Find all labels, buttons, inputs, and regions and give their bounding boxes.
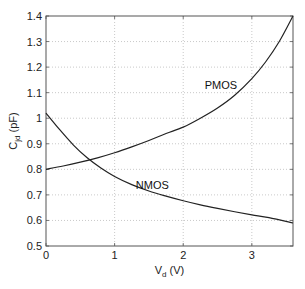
x-tick-label: 3 xyxy=(249,249,255,261)
nmos-curve xyxy=(46,113,293,223)
curve-labels: NMOSPMOS xyxy=(136,79,237,191)
y-tick-label: 1.3 xyxy=(27,36,42,48)
y-tick-label: 0.9 xyxy=(27,138,42,150)
x-tick-label: 1 xyxy=(112,249,118,261)
y-tick-label: 1 xyxy=(36,112,42,124)
y-tick-label: 1.2 xyxy=(27,61,42,73)
y-tick-label: 0.8 xyxy=(27,163,42,175)
y-tick-label: 1.1 xyxy=(27,87,42,99)
tick-marks xyxy=(46,16,293,246)
pmos-label: PMOS xyxy=(205,79,237,91)
x-tick-label: 0 xyxy=(43,249,49,261)
y-tick-label: 0.6 xyxy=(27,214,42,226)
grid-lines xyxy=(46,16,293,246)
x-tick-label: 2 xyxy=(180,249,186,261)
curves xyxy=(46,16,293,223)
plot-frame xyxy=(46,16,293,246)
nmos-label: NMOS xyxy=(136,179,169,191)
y-tick-label: 0.5 xyxy=(27,240,42,252)
junction-capacitance-chart: 0123 0.50.60.70.80.911.11.21.31.4 NMOSPM… xyxy=(0,0,305,289)
y-tick-labels: 0.50.60.70.80.911.11.21.31.4 xyxy=(27,10,42,252)
x-tick-labels: 0123 xyxy=(43,249,255,261)
y-tick-label: 0.7 xyxy=(27,189,42,201)
y-tick-label: 1.4 xyxy=(27,10,42,22)
x-axis-label: Vd (V) xyxy=(155,264,185,279)
y-axis-label: Cjd (pF) xyxy=(7,112,22,149)
